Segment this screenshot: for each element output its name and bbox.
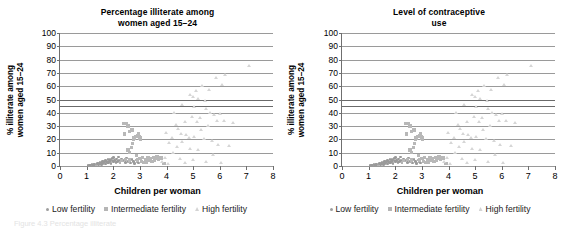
data-point [505,73,509,76]
data-point [187,136,191,139]
data-point [164,131,168,134]
gridline [342,153,555,154]
data-point [486,160,490,163]
data-point [191,158,195,161]
data-point [529,64,533,67]
data-point [456,123,460,126]
gridline [342,33,555,34]
gridline [342,60,555,61]
data-point [462,140,466,143]
gridline [342,86,555,87]
x-tick-label: 1 [361,171,377,181]
x-tick-label: 5 [185,171,201,181]
x-tick-label: 2 [105,171,121,181]
data-point [192,135,196,138]
x-tick-label: 3 [414,171,430,181]
data-point [120,159,123,162]
x-tick-label: 7 [520,171,536,181]
gridline [342,46,555,47]
gridline [60,86,273,87]
data-point [410,151,413,154]
data-point [204,160,208,163]
legend-item-low: Low fertility [46,204,95,214]
legend: Low fertility Intermediate fertility Hig… [305,204,555,214]
data-point [498,143,502,146]
gridline [60,153,273,154]
gridline [60,33,273,34]
chart-title-line2: use [321,18,557,29]
data-point [388,161,391,164]
data-point [247,64,251,67]
data-point [421,138,424,141]
data-point [417,154,420,157]
data-point [465,120,469,123]
data-point [176,127,180,130]
data-point [412,146,415,149]
data-point [207,88,211,91]
data-point [194,89,198,92]
data-point [210,139,214,142]
x-axis-title: Children per woman [40,186,275,196]
data-point [200,84,204,87]
x-tick-mark [555,166,556,170]
data-point [215,119,219,122]
y-tick-label: 40 [316,109,342,118]
y-axis-title-line1: % illiterate among [6,65,16,135]
data-point [458,127,462,130]
data-point [371,164,374,167]
data-point [219,161,223,164]
data-point [203,99,207,102]
legend-marker-triangle-icon [479,207,483,211]
legend: Low fertility Intermediate fertility Hig… [20,204,273,214]
data-point [183,161,187,164]
legend-item-high: High fertility [479,204,531,214]
data-point [199,128,203,131]
y-tick-label: 30 [34,122,60,131]
x-tick-mark [60,166,61,170]
data-point [460,157,464,160]
y-tick-label: 30 [316,122,342,131]
data-point [494,113,498,116]
x-tick-label: 8 [265,171,281,181]
chart-panel-illiteracy: Percentage illiterate among women aged 1… [0,0,281,229]
legend-item-intermediate: Intermediate fertility [388,204,470,214]
legend-marker-square-icon [104,207,108,211]
data-point [446,131,450,134]
data-point [126,124,129,127]
x-tick-mark [113,166,114,170]
data-point [123,132,126,135]
data-point [172,111,176,114]
y-tick-label: 50 [316,96,342,105]
data-point [492,139,496,142]
chart-title: Percentage illiterate among women aged 1… [40,7,275,29]
gridline [342,73,555,74]
data-point [513,121,517,124]
gridline [60,46,273,47]
y-tick-label: 40 [34,109,60,118]
y-tick-label: 60 [34,82,60,91]
data-point [462,103,466,106]
data-point [408,124,411,127]
data-point [131,142,134,145]
chart-title-line2: women aged 15–24 [40,18,275,29]
data-point [196,97,200,100]
gridline [342,106,555,107]
y-axis-title: % illiterate among women aged 15–24 [4,30,28,170]
chart-panel-contraceptive: Level of contraceptive use % illiterate … [281,0,563,229]
data-point [412,128,415,131]
data-point [130,146,133,149]
data-point [501,161,505,164]
data-point [231,121,235,124]
x-tick-mark [342,166,343,170]
y-axis-title: % illiterate among women aged 15–24 [285,30,309,170]
data-point [489,88,493,91]
x-tick-label: 3 [132,171,148,181]
legend-marker-circle-icon [46,208,49,211]
data-point [170,136,174,139]
x-tick-label: 8 [547,171,563,181]
data-point [482,84,486,87]
x-tick-label: 6 [212,171,228,181]
legend-label-low: Low fertility [52,204,95,214]
data-point [485,99,489,102]
data-point [476,89,480,92]
